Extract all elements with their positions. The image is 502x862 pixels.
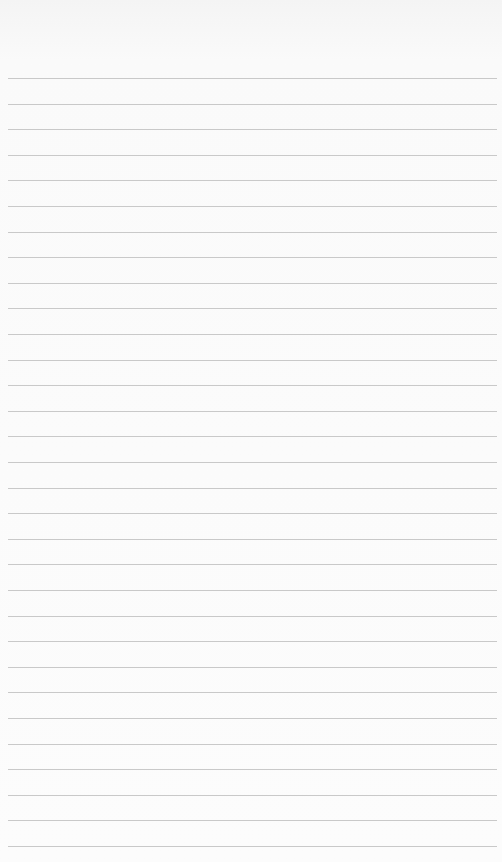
lined-paper — [0, 0, 502, 862]
ruled-line — [8, 78, 497, 79]
ruled-line — [8, 795, 497, 796]
ruled-line — [8, 129, 497, 130]
ruled-line — [8, 692, 497, 693]
ruled-line — [8, 564, 497, 565]
ruled-line — [8, 641, 497, 642]
ruled-line — [8, 667, 497, 668]
ruled-line — [8, 513, 497, 514]
ruled-line — [8, 283, 497, 284]
ruled-line — [8, 718, 497, 719]
ruled-line — [8, 104, 497, 105]
ruled-line — [8, 232, 497, 233]
ruled-line — [8, 616, 497, 617]
ruled-line — [8, 385, 497, 386]
ruled-line — [8, 206, 497, 207]
ruled-line — [8, 436, 497, 437]
ruled-line — [8, 769, 497, 770]
ruled-line — [8, 590, 497, 591]
ruled-line — [8, 820, 497, 821]
ruled-line — [8, 411, 497, 412]
ruled-line — [8, 744, 497, 745]
ruled-line — [8, 308, 497, 309]
ruled-line — [8, 462, 497, 463]
ruled-line — [8, 360, 497, 361]
ruled-line — [8, 488, 497, 489]
ruled-line — [8, 539, 497, 540]
ruled-line — [8, 846, 497, 847]
ruled-line — [8, 155, 497, 156]
ruled-line — [8, 334, 497, 335]
ruled-line — [8, 180, 497, 181]
ruled-line — [8, 257, 497, 258]
